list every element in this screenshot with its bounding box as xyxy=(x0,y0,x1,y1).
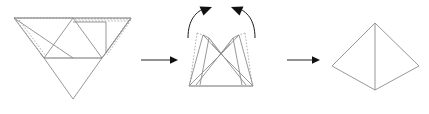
net-solid-edges xyxy=(14,18,131,99)
net-hidden-edges xyxy=(14,18,131,56)
stage-net xyxy=(14,18,131,99)
stage-folding xyxy=(188,7,255,87)
fold-arrow-left xyxy=(188,7,212,39)
folding-hidden-edges xyxy=(190,33,252,84)
diagram-canvas: Folding a square pyramid net into a soli… xyxy=(0,0,429,114)
arrow-folding-to-solid xyxy=(287,56,320,64)
arrow-net-to-folding xyxy=(141,56,178,64)
fold-arrow-right xyxy=(231,7,255,39)
stage-solid xyxy=(332,23,419,90)
pyramid-faces xyxy=(332,23,419,90)
folding-solid-edges xyxy=(189,35,253,86)
folding-diagram: Folding a square pyramid net into a soli… xyxy=(0,0,429,114)
